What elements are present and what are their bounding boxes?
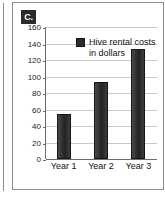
- y-tick-label: 40: [19, 122, 41, 131]
- y-tick-label: 120: [19, 56, 41, 65]
- chart-legend: Hive rental costs in dollars: [76, 37, 157, 59]
- y-tick-label: 0: [19, 155, 41, 164]
- adjacent-panel-divider: [3, 3, 4, 191]
- plot-area: Hive rental costs in dollars: [45, 27, 157, 159]
- bar-chart: 160 140 120 100 80 60 40 20 0: [21, 27, 157, 182]
- figure-screenshot: C. 160 140 120 100 80 60 40 20 0: [0, 0, 165, 197]
- y-axis-tick-labels: 160 140 120 100 80 60 40 20 0: [21, 27, 43, 159]
- bar-year-2[interactable]: [94, 82, 108, 159]
- y-tick-label: 60: [19, 105, 41, 114]
- bar-year-3[interactable]: [131, 49, 145, 159]
- x-axis-tick-labels: Year 1 Year 2 Year 3: [45, 161, 157, 175]
- y-tick-label: 80: [19, 89, 41, 98]
- x-axis-line: [46, 159, 157, 160]
- y-tick-label: 140: [19, 39, 41, 48]
- y-tick-label: 160: [19, 23, 41, 32]
- legend-label: Hive rental costs in dollars: [89, 37, 157, 59]
- x-tick-label: Year 1: [51, 161, 77, 171]
- bar-year-1[interactable]: [57, 114, 71, 159]
- y-tick-label: 20: [19, 138, 41, 147]
- x-tick-label: Year 2: [88, 161, 114, 171]
- y-tick-label: 100: [19, 72, 41, 81]
- plot-area-wrapper: 160 140 120 100 80 60 40 20 0: [21, 27, 157, 159]
- legend-swatch-icon: [76, 38, 85, 47]
- figure-panel: C. 160 140 120 100 80 60 40 20 0: [12, 2, 164, 190]
- x-tick-label: Year 3: [125, 161, 151, 171]
